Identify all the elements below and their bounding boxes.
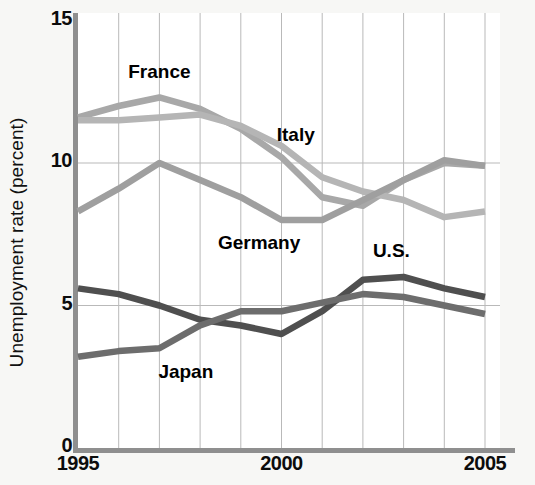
series-label-japan: Japan <box>158 361 213 383</box>
series-label-germany: Germany <box>218 232 300 254</box>
x-tick-label: 1995 <box>57 452 100 475</box>
x-tick-label: 2000 <box>260 452 303 475</box>
series-label-italy: Italy <box>277 124 315 146</box>
series-label-us: U.S. <box>373 240 410 262</box>
x-tick-label: 2005 <box>464 452 507 475</box>
series-label-france: France <box>128 61 190 83</box>
unemployment-rate-line-chart: Unemployment rate (percent) 051015 19952… <box>0 0 535 485</box>
